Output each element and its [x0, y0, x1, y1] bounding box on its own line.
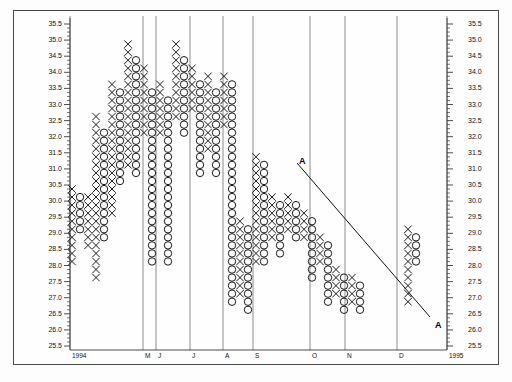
- pnf-o-mark: [100, 209, 107, 216]
- pnf-x-mark: [252, 209, 259, 216]
- pnf-o-mark: [308, 258, 315, 265]
- y-tick-label: 33.5: [468, 84, 482, 91]
- pnf-o-mark: [356, 298, 363, 305]
- pnf-x-mark: [204, 129, 211, 136]
- y-tick-label: 30.5: [48, 181, 62, 188]
- pnf-o-mark: [132, 89, 139, 96]
- pnf-x-mark: [92, 161, 99, 168]
- pnf-o-mark: [132, 169, 139, 176]
- pnf-x-mark: [156, 105, 163, 112]
- pnf-x-mark: [236, 258, 243, 265]
- pnf-o-mark: [100, 226, 107, 233]
- y-tick-label: 29.0: [468, 229, 482, 236]
- pnf-x-mark: [92, 258, 99, 265]
- pnf-o-mark: [260, 177, 267, 184]
- pnf-o-mark: [76, 201, 83, 208]
- x-tick-label: D: [399, 352, 404, 359]
- pnf-o-mark: [148, 153, 155, 160]
- pnf-x-mark: [108, 193, 115, 200]
- pnf-o-mark: [212, 145, 219, 152]
- pnf-o-mark: [148, 201, 155, 208]
- y-tick-label: 33.5: [48, 84, 62, 91]
- pnf-o-mark: [324, 298, 331, 305]
- pnf-x-mark: [300, 218, 307, 225]
- pnf-x-mark: [252, 185, 259, 192]
- pnf-o-mark: [260, 193, 267, 200]
- pnf-o-mark: [308, 218, 315, 225]
- pnf-o-mark: [340, 282, 347, 289]
- pnf-x-mark: [236, 282, 243, 289]
- pnf-x-mark: [332, 266, 339, 273]
- pnf-x-mark: [348, 282, 355, 289]
- pnf-x-mark: [124, 73, 131, 80]
- y-tick-label: 30.0: [48, 197, 62, 204]
- x-tick-label: O: [312, 352, 317, 359]
- pnf-o-mark: [228, 250, 235, 257]
- pnf-x-mark: [252, 177, 259, 184]
- pnf-o-mark: [244, 282, 251, 289]
- pnf-o-mark: [148, 185, 155, 192]
- pnf-o-mark: [412, 242, 419, 249]
- pnf-o-mark: [116, 97, 123, 104]
- pnf-x-mark: [300, 234, 307, 241]
- pnf-o-mark: [212, 113, 219, 120]
- pnf-o-mark: [356, 282, 363, 289]
- pnf-x-mark: [300, 209, 307, 216]
- pnf-x-mark: [156, 97, 163, 104]
- pnf-o-mark: [116, 129, 123, 136]
- pnf-o-mark: [148, 250, 155, 257]
- pnf-o-mark: [116, 145, 123, 152]
- pnf-o-mark: [164, 161, 171, 168]
- pnf-x-mark: [92, 121, 99, 128]
- pnf-x-mark: [84, 218, 91, 225]
- pnf-x-mark: [156, 129, 163, 136]
- pnf-o-mark: [132, 153, 139, 160]
- pnf-x-mark: [92, 274, 99, 281]
- pnf-o-mark: [164, 242, 171, 249]
- pnf-o-mark: [212, 121, 219, 128]
- pnf-o-mark: [356, 290, 363, 297]
- pnf-x-mark: [252, 193, 259, 200]
- pnf-o-mark: [228, 193, 235, 200]
- pnf-o-mark: [132, 81, 139, 88]
- pnf-o-mark: [412, 258, 419, 265]
- pnf-o-mark: [132, 161, 139, 168]
- pnf-o-mark: [308, 250, 315, 257]
- pnf-x-mark: [84, 226, 91, 233]
- pnf-x-mark: [92, 137, 99, 144]
- pnf-o-mark: [228, 97, 235, 104]
- pnf-o-mark: [260, 161, 267, 168]
- pnf-x-mark: [84, 234, 91, 241]
- pnf-x-mark: [108, 121, 115, 128]
- y-tick-label: 34.0: [48, 68, 62, 75]
- pnf-o-mark: [164, 193, 171, 200]
- y-tick-label: 27.0: [468, 294, 482, 301]
- pnf-o-mark: [324, 258, 331, 265]
- pnf-o-mark: [148, 129, 155, 136]
- pnf-x-mark: [124, 129, 131, 136]
- pnf-o-mark: [180, 105, 187, 112]
- pnf-o-mark: [196, 89, 203, 96]
- pnf-x-mark: [204, 105, 211, 112]
- pnf-x-mark: [108, 177, 115, 184]
- pnf-o-mark: [228, 298, 235, 305]
- pnf-o-mark: [100, 153, 107, 160]
- pnf-o-mark: [324, 250, 331, 257]
- pnf-o-mark: [132, 73, 139, 80]
- pnf-o-mark: [308, 242, 315, 249]
- pnf-o-mark: [180, 81, 187, 88]
- pnf-x-mark: [252, 250, 259, 257]
- pnf-o-mark: [164, 121, 171, 128]
- y-tick-label: 32.5: [468, 117, 482, 124]
- pnf-x-mark: [220, 113, 227, 120]
- pnf-x-mark: [92, 193, 99, 200]
- pnf-x-mark: [284, 226, 291, 233]
- pnf-x-mark: [204, 81, 211, 88]
- pnf-o-mark: [260, 201, 267, 208]
- pnf-o-mark: [276, 242, 283, 249]
- pnf-x-mark: [188, 89, 195, 96]
- pnf-o-mark: [276, 209, 283, 216]
- pnf-o-mark: [196, 137, 203, 144]
- pnf-o-mark: [228, 258, 235, 265]
- pnf-o-mark: [212, 161, 219, 168]
